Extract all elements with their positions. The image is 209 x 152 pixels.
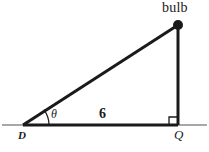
vertex-label-q: Q: [174, 128, 183, 141]
vertex-label-d: D: [18, 130, 26, 141]
bulb-label: bulb: [162, 1, 188, 15]
bulb-point-dot: [173, 20, 183, 30]
theta-angle-label: θ: [51, 108, 57, 120]
base-length-label: 6: [99, 107, 106, 121]
geometry-figure: bulb 6 θ D Q: [0, 0, 209, 152]
